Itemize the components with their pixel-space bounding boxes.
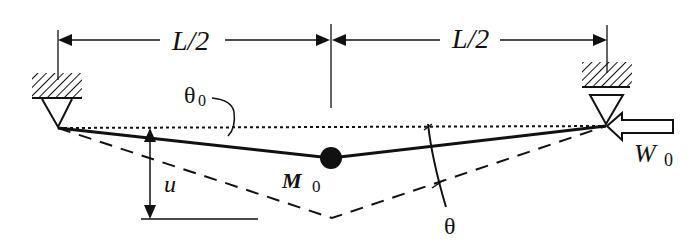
mass-subscript: 0 [312, 177, 321, 196]
axial-load-arrow: W 0 [607, 113, 673, 170]
u-label: u [164, 171, 176, 197]
initial-shape-dashed [58, 126, 606, 218]
arrowhead-icon [316, 34, 330, 46]
left-span-label: L/2 [171, 25, 209, 56]
u-dimension: u [141, 128, 258, 219]
beam-diagram: L/2 L/2 M 0 θ 0 u [0, 0, 697, 246]
central-mass [320, 147, 342, 169]
undeformed-reference-line [58, 126, 606, 128]
dimension-right-span: L/2 [332, 23, 607, 73]
left-pin-support [32, 73, 82, 127]
theta0-label: θ [184, 82, 196, 108]
arrowhead-icon [593, 34, 607, 46]
theta0-leader [212, 98, 234, 136]
load-subscript: 0 [664, 150, 673, 170]
load-label: W [634, 139, 658, 168]
dimension-left-span: L/2 [58, 25, 330, 80]
arrowhead-icon [144, 128, 156, 142]
right-pin-support [582, 62, 632, 124]
theta0-subscript: 0 [198, 92, 206, 109]
theta-angle-marker: θ [424, 124, 456, 239]
mass-label: M [281, 168, 303, 193]
theta-label: θ [444, 213, 456, 239]
arrowhead-icon [58, 34, 72, 46]
arrowhead-icon [144, 205, 156, 219]
right-span-label: L/2 [451, 23, 489, 54]
arrowhead-icon [332, 34, 346, 46]
